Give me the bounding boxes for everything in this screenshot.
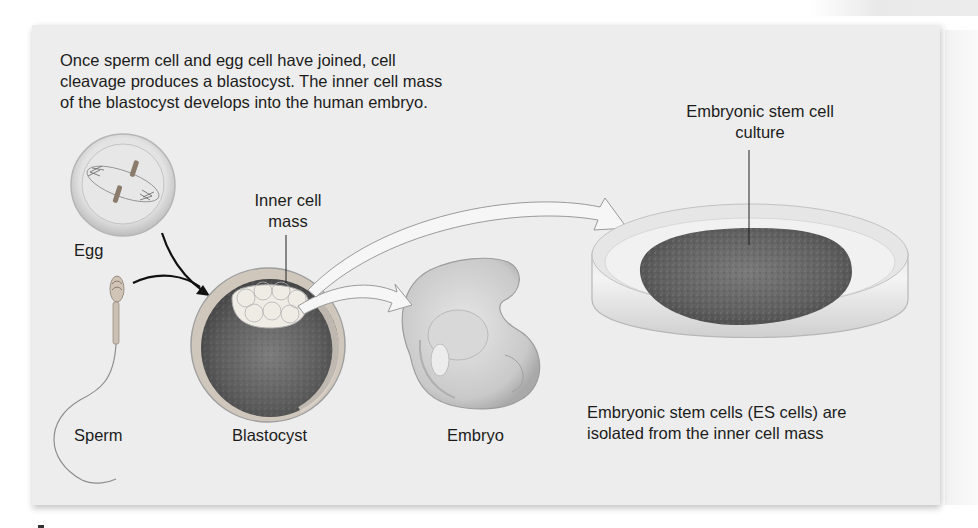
embryo	[402, 258, 539, 409]
es-caption: Embryonic stem cells (ES cells) are isol…	[587, 402, 846, 444]
egg-cell	[71, 134, 175, 236]
label-inner-cell-mass: Inner cell mass	[238, 190, 338, 232]
label-line: mass	[238, 211, 338, 232]
fertilization-arrows	[133, 233, 210, 296]
label-es-culture: Embryonic stem cell culture	[680, 101, 840, 143]
culture-dish	[592, 204, 908, 338]
intro-line: Once sperm cell and egg cell have joined…	[60, 50, 442, 71]
label-egg: Egg	[74, 240, 103, 261]
label-line: Embryonic stem cell	[680, 101, 840, 122]
label-sperm: Sperm	[74, 425, 123, 446]
label-embryo: Embryo	[447, 425, 504, 446]
caption-line: Embryonic stem cells (ES cells) are	[587, 402, 846, 423]
intro-line: of the blastocyst develops into the huma…	[60, 92, 442, 113]
intro-paragraph: Once sperm cell and egg cell have joined…	[60, 50, 442, 113]
caption-line: isolated from the inner cell mass	[587, 423, 846, 444]
label-line: Inner cell	[238, 190, 338, 211]
label-blastocyst: Blastocyst	[232, 425, 307, 446]
sperm-cell	[54, 276, 124, 483]
label-line: culture	[680, 122, 840, 143]
intro-line: cleavage produces a blastocyst. The inne…	[60, 71, 442, 92]
